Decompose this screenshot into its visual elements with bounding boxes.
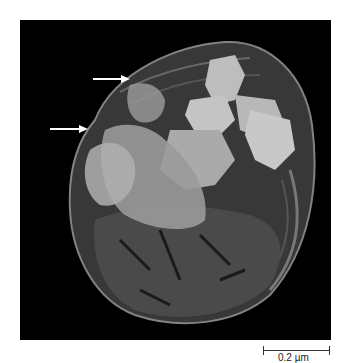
scale-bar-label: 0.2 µm [278,353,309,363]
arrow-icon [50,125,88,133]
micrograph-image [20,20,331,340]
micrograph-panel [20,20,331,340]
